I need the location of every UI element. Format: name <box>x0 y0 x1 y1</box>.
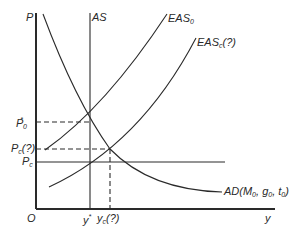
easc-label: EASc(?) <box>197 37 236 49</box>
y-star-label: y* <box>83 213 91 226</box>
yc-q-label: yc(?) <box>97 213 119 225</box>
p0-star-label: P*0 <box>16 116 27 130</box>
pc-q-label: Pc(?) <box>11 143 35 155</box>
eas0-curve <box>45 14 167 150</box>
diagram-canvas <box>0 0 308 234</box>
eas0-label: EAS0 <box>168 13 194 25</box>
as-label: AS <box>92 12 107 23</box>
pc-label: Pc <box>22 156 33 168</box>
x-axis-label: y <box>265 213 271 224</box>
easc-curve <box>49 38 196 187</box>
origin-label: O <box>27 213 36 224</box>
ad-label: AD(M0, g0, t0) <box>224 186 289 198</box>
y-axis-label: P <box>26 12 33 23</box>
